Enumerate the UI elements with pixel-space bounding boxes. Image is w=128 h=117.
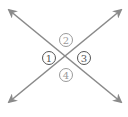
angle-label-4: 4 bbox=[60, 69, 73, 82]
angle-number-4: 4 bbox=[63, 70, 69, 81]
angle-number-3: 3 bbox=[81, 53, 87, 64]
diagram-canvas: 1 2 3 4 bbox=[0, 0, 128, 117]
angle-label-2: 2 bbox=[60, 34, 73, 47]
angle-number-1: 1 bbox=[46, 53, 52, 64]
angle-label-1: 1 bbox=[43, 52, 56, 65]
angle-number-2: 2 bbox=[63, 35, 69, 46]
angle-label-3: 3 bbox=[78, 52, 91, 65]
